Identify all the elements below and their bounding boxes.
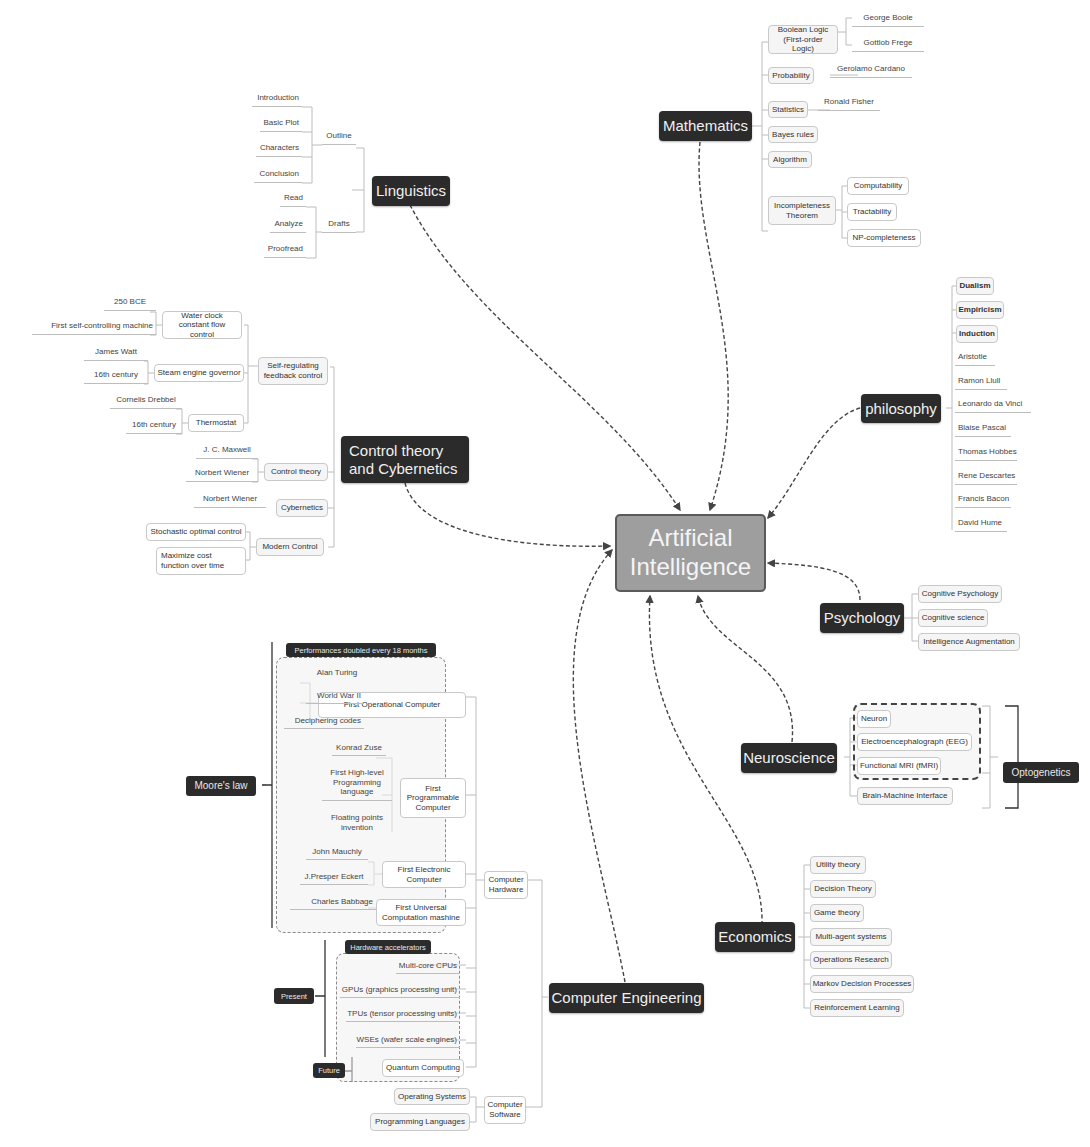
node-bayes-rules[interactable]: Bayes rules	[768, 126, 818, 143]
tag-optogenetics[interactable]: Optogenetics	[1003, 762, 1079, 783]
node-control-theory[interactable]: Control theory	[264, 463, 328, 481]
leaf-charles-babbage[interactable]: Charles Babbage	[290, 894, 376, 910]
leaf-aristotle[interactable]: Aristotle	[955, 349, 995, 366]
leaf-basic-plot[interactable]: Basic Plot	[260, 115, 302, 132]
node-decision-theory[interactable]: Decision Theory	[810, 880, 876, 898]
leaf-norbert-wiener-a[interactable]: Norbert Wiener	[186, 465, 258, 482]
node-neuron[interactable]: Neuron	[857, 710, 891, 728]
leaf-first-self-controlling[interactable]: First self-controlling machine	[32, 318, 156, 335]
leaf-16th-century-b[interactable]: 16th century	[126, 417, 182, 434]
node-markov-decision-processes[interactable]: Markov Decision Processes	[810, 975, 914, 993]
leaf-rene-descartes[interactable]: Rene Descartes	[955, 468, 1017, 485]
node-tractability[interactable]: Tractability	[847, 203, 897, 221]
leaf-deciphering-codes[interactable]: Deciphering codes	[284, 713, 364, 729]
node-operating-systems[interactable]: Operating Systems	[394, 1088, 470, 1105]
node-algorithm[interactable]: Algorithm	[768, 151, 812, 168]
leaf-jc-maxwell[interactable]: J. C. Maxwell	[196, 442, 258, 459]
leaf-francis-bacon[interactable]: Francis Bacon	[955, 491, 1011, 508]
leaf-introduction[interactable]: Introduction	[252, 90, 302, 107]
tag-hardware-accelerators[interactable]: Hardware accelerators	[345, 940, 431, 954]
leaf-ronald-fisher[interactable]: Ronald Fisher	[818, 94, 880, 111]
node-boolean-logic[interactable]: Boolean Logic (First-order Logic)	[768, 25, 838, 54]
node-intelligence-augmentation[interactable]: Intelligence Augmentation	[918, 633, 1020, 651]
leaf-norbert-wiener-b[interactable]: Norbert Wiener	[194, 491, 266, 508]
node-empiricism[interactable]: Empiricism	[956, 301, 1004, 319]
node-self-regulating-feedback[interactable]: Self-regulating feedback control	[258, 357, 328, 385]
node-computability[interactable]: Computability	[847, 177, 909, 195]
leaf-tpus[interactable]: TPUs (tensor processing units)	[346, 1006, 460, 1022]
tag-future[interactable]: Future	[313, 1063, 345, 1078]
node-reinforcement-learning[interactable]: Reinforcement Learning	[810, 999, 904, 1017]
leaf-cornelis-drebbel[interactable]: Cornelis Drebbel	[110, 392, 182, 409]
leaf-gerolamo-cardano[interactable]: Gerolamo Cardano	[830, 61, 912, 78]
node-game-theory[interactable]: Game theory	[810, 904, 864, 922]
node-probability[interactable]: Probability	[768, 67, 814, 84]
leaf-world-war-ii[interactable]: World War II	[306, 688, 364, 704]
leaf-read[interactable]: Read	[280, 190, 306, 207]
node-quantum-computing[interactable]: Quantum Computing	[382, 1059, 464, 1077]
tag-performances-doubled[interactable]: Performances doubled every 18 months	[286, 643, 436, 657]
node-computer-hardware[interactable]: Computer Hardware	[484, 871, 528, 899]
leaf-multi-core-cpus[interactable]: Multi-core CPUs	[396, 958, 460, 974]
leaf-john-mauchly[interactable]: John Mauchly	[306, 844, 368, 860]
node-cognitive-science[interactable]: Cognitive science	[918, 609, 988, 627]
node-cognitive-psychology[interactable]: Cognitive Psychology	[918, 585, 1002, 603]
leaf-leonardo-da-vinci[interactable]: Leonardo da Vinci	[955, 396, 1031, 413]
leaf-conclusion[interactable]: Conclusion	[254, 166, 302, 183]
leaf-gottlob-frege[interactable]: Gottlob Frege	[852, 35, 924, 52]
leaf-presper-eckert[interactable]: J.Presper Eckert	[300, 869, 368, 885]
leaf-outline[interactable]: Outline	[322, 128, 356, 145]
node-economics[interactable]: Economics	[715, 922, 795, 952]
node-first-universal-computation[interactable]: First Universal Computation mashine	[376, 899, 466, 926]
node-water-clock[interactable]: Water clock constant flow control	[162, 311, 242, 339]
leaf-250-bce[interactable]: 250 BCE	[104, 294, 156, 311]
tag-moores-law[interactable]: Moore's law	[186, 776, 256, 796]
leaf-blaise-pascal[interactable]: Blaise Pascal	[955, 420, 1011, 437]
leaf-george-boole[interactable]: George Boole	[852, 10, 924, 27]
node-neuroscience[interactable]: Neuroscience	[741, 743, 837, 773]
node-statistics[interactable]: Statistics	[768, 101, 808, 118]
node-modern-control[interactable]: Modern Control	[256, 538, 324, 556]
node-multi-agent-systems[interactable]: Multi-agent systems	[810, 928, 892, 946]
leaf-gpus[interactable]: GPUs (graphics processing unit)	[340, 982, 460, 998]
tag-present[interactable]: Present	[274, 988, 314, 1004]
leaf-ramon-llull[interactable]: Ramon Llull	[955, 373, 1007, 390]
leaf-thomas-hobbes[interactable]: Thomas Hobbes	[955, 444, 1017, 461]
node-cybernetics[interactable]: Cybernetics	[276, 499, 328, 517]
leaf-characters[interactable]: Characters	[256, 140, 302, 157]
central-node-artificial-intelligence[interactable]: Artificial Intelligence	[615, 514, 766, 592]
node-thermostat[interactable]: Thermostat	[188, 414, 244, 432]
node-control-theory-cybernetics[interactable]: Control theory and Cybernetics	[341, 436, 469, 483]
leaf-james-watt[interactable]: James Watt	[84, 344, 148, 361]
leaf-alan-turing[interactable]: Alan Turing	[312, 665, 362, 681]
node-mathematics[interactable]: Mathematics	[659, 111, 752, 141]
node-computer-software[interactable]: Computer Software	[484, 1096, 526, 1124]
node-stochastic-optimal-control[interactable]: Stochastic optimal control	[146, 523, 246, 541]
leaf-proofread[interactable]: Proofread	[264, 241, 306, 258]
leaf-drafts[interactable]: Drafts	[322, 216, 356, 233]
node-maximize-cost-function[interactable]: Maximize cost function over time	[156, 547, 246, 575]
node-utility-theory[interactable]: Utility theory	[810, 856, 866, 874]
leaf-16th-century-a[interactable]: 16th century	[84, 367, 148, 384]
node-incompleteness-theorem[interactable]: Incompleteness Theorem	[768, 196, 836, 225]
node-computer-engineering[interactable]: Computer Engineering	[549, 983, 704, 1013]
node-np-completeness[interactable]: NP-completeness	[847, 229, 921, 247]
node-operations-research[interactable]: Operations Research	[810, 951, 892, 969]
leaf-analyze[interactable]: Analyze	[270, 216, 306, 233]
node-brain-machine-interface[interactable]: Brain-Machine Interface	[857, 787, 953, 805]
node-psychology[interactable]: Psychology	[820, 603, 904, 633]
node-dualism[interactable]: Dualism	[956, 277, 994, 295]
node-linguistics[interactable]: Linguistics	[372, 176, 450, 206]
leaf-first-high-level-language[interactable]: First High-level Programming language	[322, 765, 392, 801]
leaf-david-hume[interactable]: David Hume	[955, 515, 1007, 532]
node-first-electronic-computer[interactable]: First Electronic Computer	[382, 861, 466, 888]
node-programming-languages[interactable]: Programming Languages	[370, 1113, 470, 1131]
node-fmri[interactable]: Functional MRI (fMRI)	[857, 757, 941, 775]
leaf-floating-points-invention[interactable]: Floating points invention	[322, 810, 392, 836]
leaf-konrad-zuse[interactable]: Konrad Zuse	[332, 740, 386, 756]
node-first-programmable-computer[interactable]: First Programmable Computer	[400, 778, 466, 818]
leaf-wses[interactable]: WSEs (wafer scale engines)	[356, 1032, 460, 1048]
node-philosophy[interactable]: philosophy	[861, 394, 941, 423]
node-steam-engine-governor[interactable]: Steam engine governor	[154, 364, 244, 382]
node-induction[interactable]: Induction	[956, 325, 998, 343]
